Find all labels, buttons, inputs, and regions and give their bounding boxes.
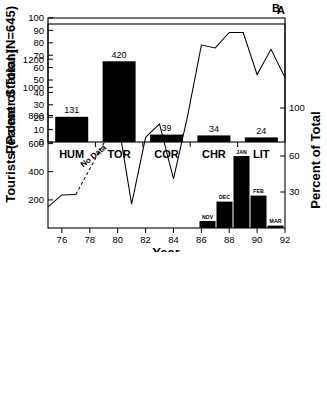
bar-cor [150, 135, 183, 142]
bar-value-lit: 24 [256, 126, 266, 136]
panel-b-ytick-50: 50 [33, 74, 44, 85]
panel-b-ytick-0: 0 [39, 136, 44, 147]
category-label-hum: HUM [59, 148, 84, 160]
bar-value-cor: 39 [161, 123, 171, 133]
panel-b-ytick-40: 40 [33, 87, 44, 98]
panel-a-xtick-88: 88 [224, 234, 235, 245]
inset-bar-label-mar: MAR [270, 218, 282, 224]
panel-b-ytick-30: 30 [33, 99, 44, 110]
panel-b-label: B [272, 2, 280, 14]
panel-a-xtick-78: 78 [85, 234, 96, 245]
panel-a-xtick-76: 76 [57, 234, 68, 245]
panel-a-xtick-90: 90 [252, 234, 263, 245]
bar-value-hum: 131 [64, 105, 79, 115]
panel-b-ytick-80: 80 [33, 37, 44, 48]
bar-value-chr: 34 [209, 124, 219, 134]
panel-b-ytick-90: 90 [33, 25, 44, 36]
panel-b-ytick-70: 70 [33, 50, 44, 61]
category-label-tor: TOR [108, 148, 131, 160]
panel-a-xtick-92: 92 [280, 234, 291, 245]
panel-b-x-axis-ticks [95, 142, 237, 147]
panel-b-ytick-60: 60 [33, 62, 44, 73]
panel-a-xtick-84: 84 [168, 234, 179, 245]
panel-b-ytick-100: 100 [28, 12, 44, 23]
category-label-cor: COR [154, 148, 179, 160]
panel-a-xtick-80: 80 [112, 234, 123, 245]
panel-a-line-early [48, 195, 76, 207]
inset-bar-label-feb: FEB [253, 188, 264, 194]
bar-chr [197, 135, 230, 142]
panel-a-x-axis-label: Year [152, 245, 179, 252]
panel-b-plot: B 100 90 80 70 60 50 40 [0, 0, 327, 165]
panel-a-xtick-86: 86 [196, 234, 207, 245]
panel-b: B 100 90 80 70 60 50 40 [0, 0, 327, 165]
inset-bar-feb [251, 196, 267, 228]
bar-lit [245, 137, 278, 142]
inset-bar-label-dec: DEC [219, 194, 230, 200]
panel-b-bar-value-labels: 131 420 39 34 24 [64, 50, 266, 136]
bar-tor [103, 61, 136, 142]
panel-a-xtick-82: 82 [140, 234, 151, 245]
bar-hum [55, 117, 88, 142]
panel-b-y-axis-label: Percent of Total (N=645) [3, 6, 18, 154]
panel-b-ytick-20: 20 [33, 112, 44, 123]
panel-a-ytick-400: 400 [28, 166, 44, 177]
figure-container: A 1200 1000 800 600 400 200 Tourists (Pa… [0, 0, 327, 417]
panel-b-ytick-10: 10 [33, 124, 44, 135]
panel-a-y2tick-30: 30 [289, 186, 300, 197]
category-label-chr: CHR [202, 148, 226, 160]
panel-b-y-axis: 100 90 80 70 60 50 40 30 20 10 0 [28, 12, 53, 147]
inset-bar-label-nov: NOV [202, 214, 214, 220]
panel-a-ytick-200: 200 [28, 194, 44, 205]
inset-bar-dec [217, 202, 233, 228]
inset-bar-nov [200, 221, 216, 228]
panel-b-category-labels: HUM TOR COR CHR LIT [59, 148, 270, 160]
panel-a-x-axis: 76 78 80 82 84 86 88 90 92 [57, 228, 291, 245]
category-label-lit: LIT [253, 148, 270, 160]
inset-bar-mar [268, 226, 284, 228]
inset-bar-jan [234, 156, 250, 228]
bar-value-tor: 420 [112, 50, 127, 60]
